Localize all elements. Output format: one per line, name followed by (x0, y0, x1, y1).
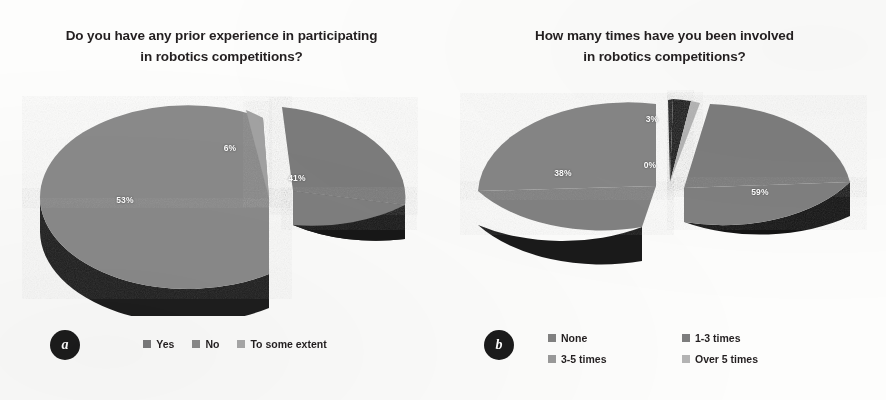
legend-item-no[interactable]: No (192, 338, 219, 350)
chart-a-title: Do you have any prior experience in part… (0, 26, 443, 68)
chart-b-plot-area: 38% 59% 0% 3% (443, 86, 886, 316)
legend-swatch-icon-to-some-extent (237, 340, 245, 348)
chart-a-label-yes: 41% (288, 173, 306, 183)
chart-panel-b: How many times have you been involved in… (443, 0, 886, 400)
chart-a-pie-svg (22, 86, 422, 316)
legend-swatch-icon-3-5-times (548, 355, 556, 363)
chart-a-label-to-some-extent: 6% (224, 143, 237, 153)
legend-label-3-5-times: 3-5 times (561, 353, 607, 365)
legend-item-over-5-times[interactable]: Over 5 times (682, 353, 816, 365)
legend-swatch-icon-over-5-times (682, 355, 690, 363)
figure-canvas: Do you have any prior experience in part… (0, 0, 886, 400)
chart-a-legend: Yes No To some extent (110, 338, 360, 350)
legend-swatch-icon-yes (143, 340, 151, 348)
chart-a-slice-yes-top (282, 107, 405, 205)
legend-item-none[interactable]: None (548, 332, 682, 344)
chart-b-slice-3-5-times-wedge (670, 99, 691, 182)
legend-label-no: No (205, 338, 219, 350)
legend-swatch-icon-none (548, 334, 556, 342)
legend-label-yes: Yes (156, 338, 174, 350)
legend-swatch-icon-no (192, 340, 200, 348)
legend-item-to-some-extent[interactable]: To some extent (237, 338, 326, 350)
chart-b-pie-svg (460, 86, 870, 316)
chart-b-label-none: 38% (554, 168, 572, 178)
chart-b-title-line1: How many times have you been involved (535, 28, 794, 43)
chart-a-label-no: 53% (116, 195, 134, 205)
chart-b-title-line2: in robotics competitions? (583, 49, 746, 64)
chart-a-plot-area: 41% 53% 6% (0, 86, 443, 316)
panel-label-b: b (484, 330, 514, 360)
legend-item-1-3-times[interactable]: 1-3 times (682, 332, 816, 344)
legend-label-to-some-extent: To some extent (250, 338, 326, 350)
legend-item-yes[interactable]: Yes (143, 338, 174, 350)
chart-b-slice-none-top-lower (478, 186, 656, 230)
legend-label-1-3-times: 1-3 times (695, 332, 741, 344)
chart-b-label-over-5-times: 3% (646, 114, 659, 124)
legend-swatch-icon-1-3-times (682, 334, 690, 342)
chart-b-legend: None 1-3 times 3-5 times Over 5 times (548, 332, 816, 365)
chart-panel-a: Do you have any prior experience in part… (0, 0, 443, 400)
chart-b-slice-1-3-times-top-upper (684, 104, 850, 188)
chart-a-title-line1: Do you have any prior experience in part… (66, 28, 378, 43)
legend-label-over-5-times: Over 5 times (695, 353, 758, 365)
legend-item-3-5-times[interactable]: 3-5 times (548, 353, 682, 365)
panel-label-a: a (50, 330, 80, 360)
chart-b-title: How many times have you been involved in… (443, 26, 886, 68)
chart-b-label-3-5-times: 0% (644, 160, 657, 170)
chart-b-label-1-3-times: 59% (751, 187, 769, 197)
legend-label-none: None (561, 332, 587, 344)
chart-a-title-line2: in robotics competitions? (140, 49, 303, 64)
